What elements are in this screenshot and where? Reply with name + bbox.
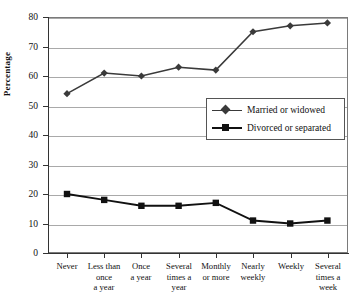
x-tick-mark	[67, 253, 68, 258]
legend-item-label: Divorced or separated	[247, 123, 331, 133]
y-tick-label: 60	[8, 72, 38, 82]
y-tick-mark	[43, 17, 48, 18]
chart-container: Percentage 80 70 60 50 40 30 20 10 0 Nev…	[0, 0, 361, 298]
legend-item-divorced-or-separated: Divorced or separated	[212, 119, 331, 137]
legend-item-label: Married or widowed	[247, 105, 325, 115]
y-axis-line	[48, 17, 49, 254]
y-tick-label: 30	[8, 161, 38, 171]
y-tick-label: 20	[8, 190, 38, 200]
y-tick-mark	[43, 165, 48, 166]
y-tick-mark	[43, 76, 48, 77]
y-tick-mark	[43, 47, 48, 48]
legend-item-married-or-widowed: Married or widowed	[212, 101, 325, 119]
x-axis-line	[48, 253, 349, 254]
y-tick-mark	[43, 106, 48, 107]
y-tick-mark	[43, 135, 48, 136]
x-tick-label-several-times-a-week: Several times a week	[301, 261, 355, 293]
x-tick-mark	[291, 253, 292, 258]
gridline	[49, 225, 347, 226]
gridline	[49, 195, 347, 196]
y-tick-label: 0	[8, 249, 38, 259]
y-tick-label: 10	[8, 220, 38, 230]
gridline	[49, 166, 347, 167]
gridline	[49, 77, 347, 78]
legend: Married or widowed Divorced or separated	[206, 98, 345, 140]
x-tick-mark	[253, 253, 254, 258]
y-tick-label: 40	[8, 131, 38, 141]
y-tick-mark	[43, 224, 48, 225]
x-tick-mark	[216, 253, 217, 258]
x-tick-label-line: weekly	[226, 272, 280, 283]
gridline	[49, 18, 347, 19]
x-tick-label-line: year	[152, 282, 206, 293]
y-tick-label: 80	[8, 13, 38, 23]
y-tick-label: 50	[8, 102, 38, 112]
x-tick-mark	[104, 253, 105, 258]
y-tick-mark	[43, 194, 48, 195]
x-tick-mark	[141, 253, 142, 258]
x-tick-label-line: a year	[77, 282, 131, 293]
y-tick-mark	[43, 253, 48, 254]
gridline	[49, 48, 347, 49]
x-tick-label-line: Several	[301, 261, 355, 272]
diamond-marker-icon	[212, 104, 242, 116]
x-tick-mark	[328, 253, 329, 258]
x-tick-label-line: week	[301, 282, 355, 293]
x-tick-mark	[179, 253, 180, 258]
y-tick-label: 70	[8, 43, 38, 53]
square-marker-icon	[212, 122, 242, 134]
x-tick-label-line: times a	[301, 272, 355, 283]
